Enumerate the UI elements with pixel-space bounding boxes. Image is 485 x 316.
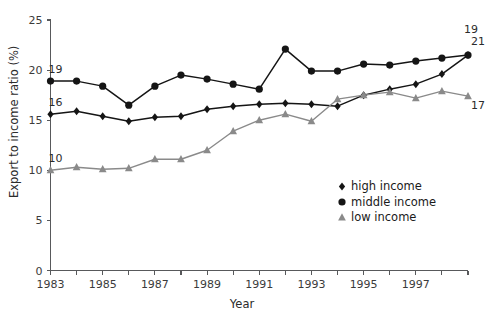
- legend-label-middle-income: middle income: [351, 195, 436, 209]
- data-point-circle: [203, 76, 210, 83]
- data-point-diamond: [339, 183, 345, 191]
- data-point-diamond: [47, 110, 53, 118]
- annotation-end-high: 19: [464, 23, 478, 36]
- data-point-circle: [386, 61, 393, 68]
- x-tick-label: 1987: [141, 278, 169, 291]
- data-point-diamond: [413, 80, 419, 88]
- data-point-circle: [47, 78, 54, 85]
- x-tick-label: 1985: [89, 278, 117, 291]
- x-tick-label: 1983: [37, 278, 65, 291]
- data-point-triangle: [438, 87, 446, 94]
- y-tick-label: 15: [29, 114, 43, 127]
- annotation-start-middle: 19: [49, 63, 63, 76]
- data-point-circle: [73, 78, 80, 85]
- chart-canvas: Export to income ratio (%) Year 05101520…: [0, 0, 485, 316]
- legend-label-low-income: low income: [351, 210, 416, 224]
- data-point-diamond: [230, 102, 236, 110]
- data-point-circle: [99, 83, 106, 90]
- chart-legend: high incomemiddle incomelow income: [338, 179, 436, 224]
- x-tick-label: 1989: [193, 278, 221, 291]
- series-low-income: [47, 87, 472, 173]
- y-tick-label: 20: [29, 64, 43, 77]
- data-point-triangle: [203, 146, 211, 153]
- y-tick-label: 0: [36, 265, 43, 278]
- series-layer: [47, 45, 472, 173]
- x-tick-label: 1991: [245, 278, 273, 291]
- y-axis-title-label: Export to income ratio (%): [7, 46, 21, 198]
- data-point-circle: [308, 68, 315, 75]
- data-point-circle: [151, 83, 158, 90]
- data-point-diamond: [204, 105, 210, 113]
- series-line: [51, 49, 469, 105]
- data-point-circle: [464, 51, 471, 58]
- y-axis-ticks: 0510152025: [29, 14, 51, 278]
- series-middle-income: [47, 45, 472, 108]
- data-point-circle: [438, 54, 445, 61]
- data-point-diamond: [334, 102, 340, 110]
- data-point-circle: [360, 60, 367, 67]
- annotation-end-low: 17: [471, 99, 485, 112]
- x-tick-label: 1997: [402, 278, 430, 291]
- line-chart: Export to income ratio (%) Year 05101520…: [0, 0, 485, 316]
- axis-lines: [51, 20, 469, 271]
- x-axis-ticks: 19831985198719891991199319951997: [37, 271, 469, 291]
- data-point-triangle: [73, 163, 81, 170]
- data-point-circle: [282, 45, 289, 52]
- annotation-end-middle: 21: [471, 35, 485, 48]
- data-point-diamond: [73, 107, 79, 115]
- data-point-diamond: [308, 100, 314, 108]
- data-point-diamond: [178, 112, 184, 120]
- y-axis-title: Export to income ratio (%): [7, 46, 21, 198]
- x-tick-label: 1993: [297, 278, 325, 291]
- y-tick-label: 10: [29, 164, 43, 177]
- annotation-start-high: 16: [49, 96, 63, 109]
- data-point-triangle: [338, 213, 346, 220]
- annotation-start-low: 10: [49, 152, 63, 165]
- data-point-circle: [256, 86, 263, 93]
- data-point-circle: [334, 68, 341, 75]
- data-point-circle: [412, 57, 419, 64]
- data-point-diamond: [256, 100, 262, 108]
- data-point-diamond: [126, 117, 132, 125]
- data-point-circle: [125, 102, 132, 109]
- data-point-diamond: [100, 112, 106, 120]
- data-point-circle: [230, 81, 237, 88]
- y-tick-label: 5: [36, 214, 43, 227]
- data-point-triangle: [281, 110, 289, 117]
- data-point-circle: [338, 198, 345, 205]
- x-tick-label: 1995: [350, 278, 378, 291]
- legend-label-high-income: high income: [351, 179, 422, 193]
- x-axis-title-label: Year: [229, 297, 255, 311]
- data-point-circle: [177, 72, 184, 79]
- data-point-diamond: [439, 70, 445, 78]
- data-point-diamond: [282, 99, 288, 107]
- y-tick-label: 25: [29, 14, 43, 27]
- data-point-diamond: [152, 113, 158, 121]
